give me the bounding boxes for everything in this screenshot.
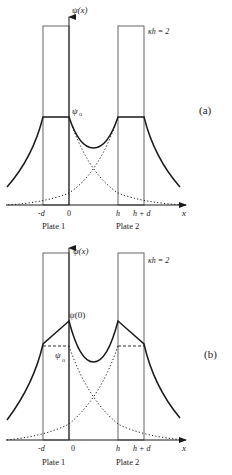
plate-2-outline xyxy=(118,26,144,205)
peak-label: ψ(0) xyxy=(69,310,85,320)
panel-a: ψ(x) κh = 2 ψ o (a) -d 0 h h + d x Plate… xyxy=(6,5,212,231)
plate-2-label: Plate 2 xyxy=(116,221,139,231)
dotted-decay-plate1 xyxy=(69,117,186,205)
diagram-canvas: ψ(x) κh = 2 ψ o (a) -d 0 h h + d x Plate… xyxy=(0,0,232,475)
potential-curve xyxy=(7,321,180,420)
plate-2-label: Plate 2 xyxy=(116,457,139,467)
tick-h: h xyxy=(116,444,120,453)
psi-o-subscript: o xyxy=(79,111,82,117)
plate-1-label: Plate 1 xyxy=(42,457,65,467)
psi-o-label: ψ xyxy=(72,106,78,116)
parameter-label: κh = 2 xyxy=(148,27,169,36)
panel-b: ψ(x) κh = 2 ψ(0) ψ o (b) -d 0 h h + d x … xyxy=(6,246,217,467)
x-axis-label: x xyxy=(181,443,186,453)
potential-curve xyxy=(7,117,180,187)
y-axis-label: ψ(x) xyxy=(73,246,89,256)
parameter-label: κh = 2 xyxy=(148,256,169,265)
tick-minus-d: -d xyxy=(38,444,46,453)
psi-o-label: ψ xyxy=(55,350,61,360)
x-axis-label: x xyxy=(181,208,186,218)
plate-1-label: Plate 1 xyxy=(42,221,65,231)
tick-zero: 0 xyxy=(67,209,71,218)
psi-o-subscript: o xyxy=(62,357,65,363)
y-axis-label: ψ(x) xyxy=(72,5,88,15)
plate-1-outline xyxy=(43,253,69,440)
tick-h-plus-d: h + d xyxy=(133,209,151,218)
tick-minus-d: -d xyxy=(38,209,46,218)
tick-h: h xyxy=(116,209,120,218)
plate-2-outline xyxy=(118,253,144,440)
tick-zero: 0 xyxy=(71,444,75,453)
panel-label-a: (a) xyxy=(199,104,212,117)
dotted-decay-plate2 xyxy=(6,117,118,205)
panel-label-b: (b) xyxy=(204,348,217,361)
tick-h-plus-d: h + d xyxy=(133,444,151,453)
plate-1-outline xyxy=(43,26,69,205)
